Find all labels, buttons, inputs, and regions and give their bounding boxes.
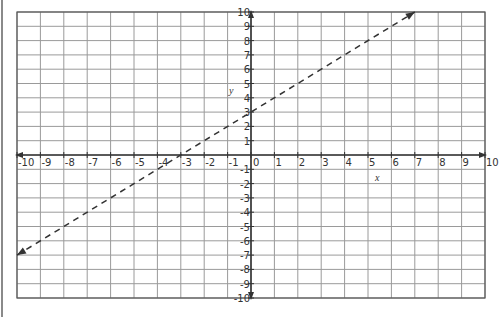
x-tick-label: 9	[463, 157, 469, 168]
x-tick-label: 6	[392, 157, 398, 168]
y-tick-label: -4	[240, 207, 250, 218]
x-tick-label: -9	[41, 157, 51, 168]
y-tick-label: 10	[237, 7, 250, 18]
y-tick-label: -8	[240, 264, 250, 275]
y-tick-label: 7	[244, 50, 250, 61]
x-tick-label: -3	[182, 157, 192, 168]
x-tick-label: 0	[253, 157, 259, 168]
x-tick-label: 8	[439, 157, 445, 168]
x-tick-label: -6	[112, 157, 122, 168]
x-axis-label: x	[374, 172, 380, 183]
x-tick-label: 7	[416, 157, 422, 168]
x-tick-label: -5	[135, 157, 145, 168]
y-tick-label: -9	[240, 279, 250, 290]
data-line	[17, 12, 415, 255]
y-tick-label: 5	[244, 79, 250, 90]
x-tick-label: 10	[486, 157, 499, 168]
y-tick-label: 4	[244, 93, 250, 104]
y-tick-label: -5	[240, 222, 250, 233]
y-tick-label: -10	[234, 293, 250, 304]
y-axis-label: y	[228, 85, 234, 96]
y-tick-label: -6	[240, 236, 250, 247]
y-tick-label: 2	[244, 121, 250, 132]
y-tick-label: -3	[240, 193, 250, 204]
line-arrow-start-icon	[17, 247, 27, 255]
dashed-line	[17, 12, 415, 255]
x-tick-label: -1	[229, 157, 239, 168]
y-tick-label: 1	[244, 136, 250, 147]
x-tick-label: -8	[65, 157, 75, 168]
x-tick-label: 1	[275, 157, 281, 168]
y-tick-label: 9	[244, 21, 250, 32]
y-tick-label: 6	[244, 64, 250, 75]
y-tick-label: -1	[240, 164, 250, 175]
x-tick-label: 4	[346, 157, 352, 168]
x-tick-label: -2	[205, 157, 215, 168]
x-tick-label: 3	[322, 157, 328, 168]
axes	[15, 10, 487, 300]
x-tick-label: 2	[299, 157, 305, 168]
coordinate-plane: -10-9-8-7-6-5-4-3-2-1012345678910-10-9-8…	[0, 0, 504, 317]
x-tick-label: -7	[88, 157, 98, 168]
x-tick-label: -4	[158, 157, 168, 168]
line-arrow-end-icon	[405, 12, 415, 20]
y-tick-label: 8	[244, 36, 250, 47]
x-tick-label: -10	[18, 157, 34, 168]
y-tick-label: -2	[240, 179, 250, 190]
y-tick-label: -7	[240, 250, 250, 261]
x-tick-label: 5	[369, 157, 375, 168]
